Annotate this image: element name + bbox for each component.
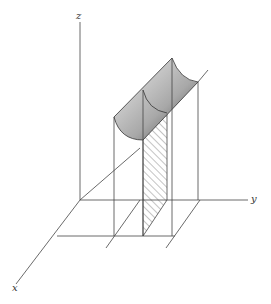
- x-axis: [16, 200, 80, 284]
- z-axis-label: z: [76, 10, 81, 21]
- diagram: z y x: [0, 0, 271, 304]
- x-axis-label: x: [12, 282, 18, 293]
- y-axis-label: y: [251, 193, 257, 204]
- 3d-surface-figure: [0, 0, 271, 304]
